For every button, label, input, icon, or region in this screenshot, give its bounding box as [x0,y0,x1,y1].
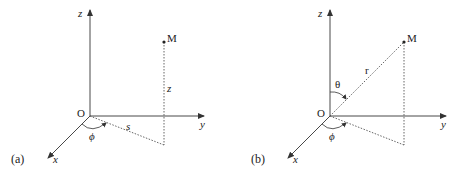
projection-line [330,116,404,145]
x-axis-label: x [292,153,298,165]
x-axis-label: x [52,153,58,165]
origin-label: O [317,107,325,119]
point-m-label: M [407,32,417,44]
panel-a-caption: (a) [11,152,24,166]
phi-label: ϕ [329,130,335,142]
theta-label: θ [335,78,340,90]
point-m [402,40,405,43]
theta-arc [330,92,346,99]
panel-a-cylindrical: z y x O M z s ϕ (a) [11,7,205,166]
radial-s-label: s [126,120,130,132]
radius-r-label: r [365,64,369,76]
phi-arc [322,123,346,129]
z-axis-label: z [317,7,323,19]
x-axis [48,116,90,158]
point-m-label: M [167,32,177,44]
panel-b-spherical: z y x O M r θ ϕ (b) [251,7,446,166]
phi-arc [82,123,106,129]
y-axis-label: y [440,118,446,130]
y-axis-label: y [199,118,205,130]
z-axis-label: z [77,7,83,19]
x-axis [288,116,330,158]
point-m [162,40,165,43]
height-z-label: z [166,82,172,94]
phi-label: ϕ [89,130,95,142]
coordinate-diagrams: z y x O M z s ϕ (a) z y x O M r θ ϕ (b) [0,0,463,176]
origin-label: O [77,107,85,119]
r-radius-line [330,42,404,116]
panel-b-caption: (b) [251,152,265,166]
